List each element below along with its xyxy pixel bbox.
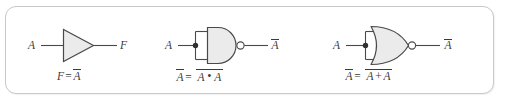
inverter-input-label: A	[28, 40, 35, 52]
inverter-output-label: F	[120, 40, 127, 52]
nand-caption-operand-left: A	[198, 71, 205, 83]
nor-caption-operand-right: A	[383, 70, 390, 82]
nor-caption-equals: =	[353, 70, 362, 82]
circuit-inverter: A F F=A	[0, 0, 160, 107]
nand-output-label: A	[271, 40, 279, 52]
nor-caption-operator: +	[374, 70, 384, 82]
not-gate-triangle	[64, 30, 94, 62]
nor-caption-lhs: A	[346, 70, 353, 82]
nor-caption: A= A+A	[345, 70, 392, 83]
logic-gate-equivalents-figure: A F F=A A A A= A•A	[0, 0, 505, 107]
inverter-caption-rhs: A	[73, 70, 80, 82]
nand-output-label-text: A	[272, 39, 279, 51]
nor-junction-dot	[363, 43, 368, 48]
nand-caption-operand-right: A	[214, 71, 221, 83]
or-gate-body	[371, 27, 409, 65]
inverter-schematic	[0, 0, 160, 107]
inverter-caption: F=A	[57, 70, 81, 83]
circuit-nand-tied: A A A= A•A	[160, 0, 325, 107]
and-gate-body	[208, 28, 237, 64]
nor-input-label: A	[333, 40, 340, 52]
nand-schematic	[160, 0, 325, 107]
nand-junction-dot	[193, 43, 198, 48]
inverter-caption-equals: =	[64, 70, 73, 82]
circuit-nor-tied: A A A= A+A	[325, 0, 505, 107]
nand-caption-lhs: A	[177, 71, 184, 83]
nor-output-label: A	[444, 40, 452, 52]
nand-caption: A= A•A	[176, 70, 223, 83]
nor-output-label-text: A	[445, 39, 452, 51]
nor-schematic	[325, 0, 505, 107]
nand-output-bubble-icon	[237, 42, 244, 49]
nand-caption-operator: •	[205, 69, 214, 83]
nor-output-bubble-icon	[408, 42, 415, 49]
nor-caption-operand-left: A	[367, 70, 374, 82]
nand-caption-equals: =	[184, 71, 193, 83]
nand-input-label: A	[165, 40, 172, 52]
